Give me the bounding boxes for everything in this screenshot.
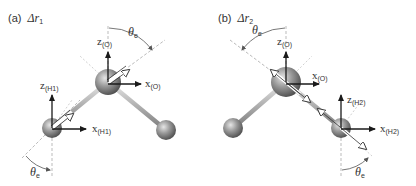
h2-displacement-arrow: [341, 128, 366, 149]
panel-b-letter: (b): [218, 12, 231, 24]
panel-a-title: (a) Δr1: [8, 12, 43, 25]
panel-b-o-x-label: x(O): [312, 70, 328, 82]
panel-a-letter: (a): [8, 12, 21, 24]
panel-b-h2-z-label: z(H2): [347, 94, 366, 106]
panel-a-symbol: Δr: [28, 11, 40, 25]
panel-a-theta-top: θe: [128, 26, 138, 39]
panel-a-h1-z-label: z(H1): [40, 80, 59, 92]
panel-b-symbol: Δr: [238, 11, 250, 25]
panel-b-o-z-label: z(O): [277, 36, 292, 48]
h2-displacement-arrow-back: [318, 109, 340, 127]
diagram-canvas: [0, 0, 416, 186]
panel-a: [22, 26, 176, 178]
water-vibration-figure: (a) Δr1 θe θe z(O) x(O) z(H1) x(H1) (b) …: [0, 0, 416, 186]
panel-b-theta-top: θe: [252, 24, 262, 37]
panel-a-theta-bottom: θe: [30, 166, 40, 179]
panel-b-title: (b) Δr2: [218, 12, 253, 25]
panel-b-h2-x-label: x(H2): [380, 123, 399, 135]
hydrogen-atom-h2: [156, 120, 176, 140]
panel-b-theta-bottom: θe: [355, 166, 365, 179]
hydrogen-atom-h1: [223, 118, 243, 138]
panel-a-o-z-label: z(O): [97, 36, 112, 48]
panel-a-h1-x-label: x(H1): [92, 123, 111, 135]
panel-a-o-x-label: x(O): [145, 78, 161, 90]
